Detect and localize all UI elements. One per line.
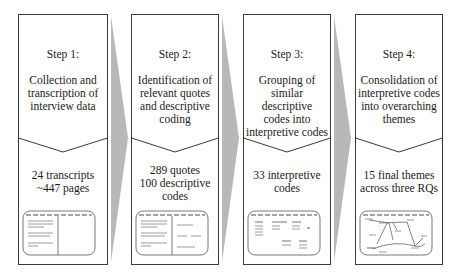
description-line: Grouping of xyxy=(245,74,329,87)
step-result: 24 transcripts ~447 pages xyxy=(20,169,106,195)
result-line: 15 final themes xyxy=(357,169,441,182)
description-line: themes xyxy=(357,113,441,126)
result-line: 33 interpretive xyxy=(245,169,329,182)
step-panel-1: Step 1: Collection and transcription of … xyxy=(18,14,108,265)
result-line: codes xyxy=(133,190,217,203)
step-description: Collection and transcription of intervie… xyxy=(20,74,106,113)
step-title: Step 4: xyxy=(355,48,443,61)
description-line: Identification of xyxy=(133,74,217,87)
step-panel-3: Step 3: Grouping of similar descriptive … xyxy=(243,14,331,265)
result-line: 24 transcripts xyxy=(20,169,106,182)
step-panel-2: Step 2: Identification of relevant quote… xyxy=(131,14,219,265)
step-title: Step 2: xyxy=(131,48,219,61)
step-description: Consolidation of interpretive codes into… xyxy=(357,74,441,126)
description-line: codes into xyxy=(245,113,329,126)
arrow-wedge-2-to-3 xyxy=(222,16,239,262)
result-line: codes xyxy=(245,182,329,195)
description-line: transcription of xyxy=(20,87,106,100)
two-pane-coding-window-icon xyxy=(135,208,215,258)
step-result: 289 quotes 100 descriptive codes xyxy=(133,164,217,203)
description-line: relevant quotes xyxy=(133,87,217,100)
result-line: across three RQs xyxy=(357,182,441,195)
two-pane-transcript-window-icon xyxy=(22,208,104,258)
grouped-codes-window-icon xyxy=(247,208,327,258)
description-line: into overarching xyxy=(357,100,441,113)
theme-network-window-icon xyxy=(359,208,439,258)
result-line: 100 descriptive xyxy=(133,177,217,190)
step-description: Identification of relevant quotes and de… xyxy=(133,74,217,126)
result-line: ~447 pages xyxy=(20,182,106,195)
step-result: 33 interpretive codes xyxy=(245,169,329,195)
step-description: Grouping of similar descriptive codes in… xyxy=(245,74,329,139)
description-line: Collection and xyxy=(20,74,106,87)
step-title: Step 3: xyxy=(243,48,331,61)
description-line: interview data xyxy=(20,100,106,113)
step-title: Step 1: xyxy=(18,48,108,61)
step-panel-4: Step 4: Consolidation of interpretive co… xyxy=(355,14,443,265)
description-line: and descriptive xyxy=(133,100,217,113)
description-line: interpretive codes xyxy=(357,87,441,100)
result-line: 289 quotes xyxy=(133,164,217,177)
description-line: similar descriptive xyxy=(245,87,329,113)
description-line: coding xyxy=(133,113,217,126)
description-line: Consolidation of xyxy=(357,74,441,87)
description-line: interpretive codes xyxy=(245,126,329,139)
step-result: 15 final themes across three RQs xyxy=(357,169,441,195)
arrow-wedge-3-to-4 xyxy=(334,16,351,262)
